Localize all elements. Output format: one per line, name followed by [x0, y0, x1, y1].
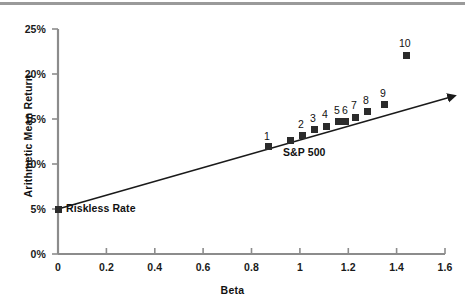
sp500-annotation: S&P 500: [283, 146, 326, 158]
data-point-2: [299, 132, 306, 139]
y-axis-title: Arithmetic Mean Return: [22, 56, 34, 216]
x-tick-label-1-6: 1.6: [425, 261, 465, 273]
data-point-label-3: 3: [310, 112, 316, 124]
x-tick-label-0: 0: [38, 261, 78, 273]
data-point-8: [364, 108, 371, 115]
data-point-3: [311, 126, 318, 133]
data-point-4: [323, 123, 330, 130]
data-point-label-9: 9: [380, 87, 386, 99]
data-point-label-7: 7: [351, 99, 357, 111]
data-point-6: [342, 118, 349, 125]
data-point-sp500: [287, 137, 294, 144]
security-market-line: [58, 98, 449, 210]
x-tick-label-0-6: 0.6: [183, 261, 223, 273]
chart-container: 25% 20% 15% 10% 5% 0% 0 0.2 0.4 0.6 0.8 …: [0, 0, 465, 306]
x-axis-title: Beta: [0, 284, 465, 296]
x-tick-label-0-4: 0.4: [135, 261, 175, 273]
x-tick-label-1-2: 1.2: [328, 261, 368, 273]
data-point-10: [403, 52, 410, 59]
data-point-label-8: 8: [363, 94, 369, 106]
riskless-rate-annotation: Riskless Rate: [66, 202, 136, 214]
x-tick-label-1: 1: [280, 261, 320, 273]
data-point-label-1: 1: [264, 130, 270, 142]
data-point-riskless-rate: [55, 206, 62, 213]
data-point-5: [335, 118, 342, 125]
y-tick-label-25: 25%: [14, 23, 46, 35]
x-tick-label-0-8: 0.8: [232, 261, 272, 273]
data-point-label-2: 2: [298, 118, 304, 130]
data-point-label-10: 10: [399, 37, 411, 49]
x-tick-label-1-4: 1.4: [377, 261, 417, 273]
x-tick-label-0-2: 0.2: [86, 261, 126, 273]
data-point-label-4: 4: [322, 108, 328, 120]
data-point-7: [352, 114, 359, 121]
data-point-9: [381, 101, 388, 108]
data-point-1: [265, 143, 272, 150]
data-point-label-6: 6: [342, 104, 348, 116]
y-tick-label-0: 0%: [14, 248, 46, 260]
data-point-label-5: 5: [334, 104, 340, 116]
